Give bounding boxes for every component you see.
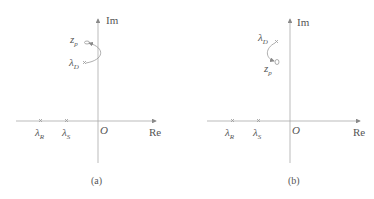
caption-b: (b): [288, 176, 300, 186]
zp-marker-b: [275, 60, 279, 65]
lambda-d-marker-b: [275, 40, 278, 43]
lambda-d-label-a: λD: [69, 57, 79, 68]
zp-marker-a: [85, 41, 90, 44]
trajectory-arrow-b: [267, 43, 275, 61]
lambda-d-marker-a: [83, 61, 86, 64]
zp-label-a: zp: [70, 34, 78, 45]
im-label-b: Im: [297, 17, 309, 28]
lambda-r-marker-a: [39, 119, 42, 122]
lambda-d-label-b: λD: [258, 32, 268, 43]
panel-a-markers: [39, 41, 90, 122]
im-label-a: Im: [106, 15, 118, 26]
zp-label-b: zp: [264, 63, 272, 74]
lambda-s-marker-b: [257, 119, 260, 122]
panel-b-markers: [231, 40, 279, 122]
lambda-s-label-b: λS: [253, 127, 261, 138]
caption-a: (a): [91, 176, 102, 186]
lambda-r-label-b: λR: [225, 127, 234, 138]
lambda-r-marker-b: [231, 119, 234, 122]
re-label-b: Re: [353, 127, 365, 138]
panel-b-axes: [207, 19, 360, 163]
lambda-r-label-a: λR: [35, 127, 44, 138]
re-label-a: Re: [149, 127, 161, 138]
origin-label-b: O: [292, 125, 300, 136]
origin-label-a: O: [100, 125, 108, 136]
trajectory-arrow-a: [86, 43, 101, 63]
lambda-s-label-a: λS: [62, 127, 70, 138]
lambda-s-marker-a: [65, 119, 68, 122]
panel-a-axes: [16, 19, 156, 163]
diagram-canvas: [0, 0, 374, 199]
